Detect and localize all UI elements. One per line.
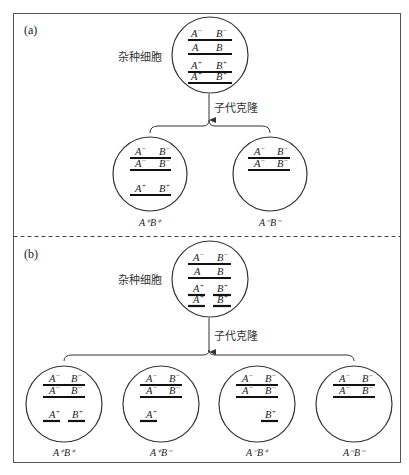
clone-genotype: A⁺B⁺ <box>138 217 162 228</box>
clone-genotype: A⁻B⁻ <box>258 217 282 228</box>
svg-text:B: B <box>217 266 224 277</box>
clone-genotype: A⁻B⁻ <box>342 447 366 458</box>
clone-genotype: A⁻B⁺ <box>245 447 269 458</box>
svg-text:B: B <box>216 42 223 53</box>
panel-a: (a) 杂种细胞 A− B− A B A+ B+ A+ B+ 子代克隆 <box>24 17 307 228</box>
clone-label-b: 子代克隆 <box>214 329 258 343</box>
clone-b-3: A− B− A− B− B+ A⁻B⁺ <box>219 366 295 458</box>
hybrid-cell-label-b: 杂种细胞 <box>118 273 162 287</box>
svg-text:A: A <box>191 42 199 53</box>
clone-a-2: A− B− A− B− A⁻B⁻ <box>233 137 307 228</box>
svg-text:A: A <box>193 266 201 277</box>
clone-b-2: A− B− A− B− A+ A⁺B⁻ <box>123 366 199 458</box>
clone-a-1: A− B− A− B− A+ B+ A⁺B⁺ <box>113 137 187 228</box>
hybrid-cell-label-a: 杂种细胞 <box>118 50 162 64</box>
clone-genotype: A⁺B⁻ <box>149 447 173 458</box>
clone-genotype: A⁺B⁺ <box>52 447 76 458</box>
panel-b-label: (b) <box>24 247 38 261</box>
panel-a-label: (a) <box>24 23 37 37</box>
clone-b-4: A− B− A− B− A⁻B⁻ <box>316 366 392 458</box>
clone-label-a: 子代克隆 <box>214 101 258 115</box>
panel-b: (b) 杂种细胞 A− B− A B A+ B+ A+ B+ 子代克隆 A− B… <box>24 241 392 458</box>
brace-b <box>64 350 354 361</box>
gene-mapping-diagram: (a) 杂种细胞 A− B− A B A+ B+ A+ B+ 子代克隆 <box>0 0 409 475</box>
brace-a <box>150 120 270 133</box>
hybrid-cell-b: A− B− A B A+ B+ A+ B+ <box>172 241 248 317</box>
hybrid-cell-a: A− B− A B A+ B+ A+ B+ <box>172 17 248 93</box>
clone-b-1: A− B− A− B− A+ B+ A⁺B⁺ <box>26 366 102 458</box>
